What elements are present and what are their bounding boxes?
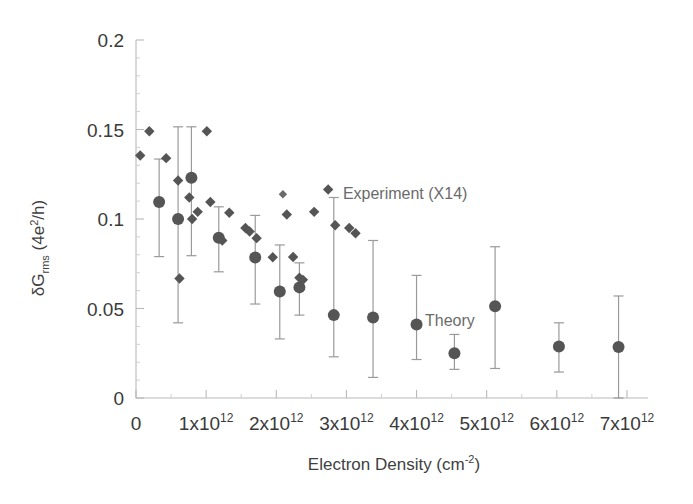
- y-tick-label: 0.2: [98, 30, 124, 51]
- scatter-plot-svg: 01x10122x10123x10124x10125x10126x10127x1…: [0, 0, 693, 504]
- y-axis-title: δGrms (4e2/h): [28, 200, 51, 296]
- y-tick-label: 0: [113, 388, 124, 409]
- theory-point: [613, 341, 625, 353]
- theory-point: [411, 319, 423, 331]
- theory-point: [553, 340, 565, 352]
- annotation-label: Theory: [425, 312, 475, 329]
- theory-point: [153, 196, 165, 208]
- theory-point: [367, 311, 379, 323]
- y-tick-label: 0.1: [98, 209, 124, 230]
- x-axis-title: Electron Density (cm-2): [308, 453, 480, 474]
- annotation-label: Experiment (X14): [343, 185, 468, 202]
- theory-point: [185, 172, 197, 184]
- theory-point: [328, 309, 340, 321]
- theory-point: [448, 347, 460, 359]
- y-tick-label: 0.15: [87, 120, 124, 141]
- theory-point: [172, 213, 184, 225]
- theory-point: [274, 285, 286, 297]
- chart-figure: 01x10122x10123x10124x10125x10126x10127x1…: [0, 0, 693, 504]
- theory-point: [249, 251, 261, 263]
- theory-point: [489, 300, 501, 312]
- y-tick-label: 0.05: [87, 299, 124, 320]
- x-tick-label: 0: [131, 413, 142, 434]
